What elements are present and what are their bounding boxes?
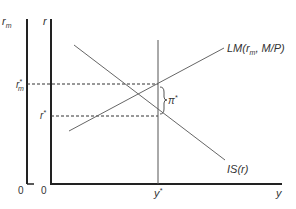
rm-origin-label: 0 <box>18 185 24 196</box>
is-curve-label: IS(r) <box>227 163 249 175</box>
y-star-tick-label: y* <box>153 187 163 199</box>
lm-curve-label: LM(rm, M/P) <box>227 42 285 56</box>
lm-curve <box>69 48 224 131</box>
rm-star-tick-label: r*m <box>16 78 24 92</box>
rm-axis-label: rm <box>2 15 12 29</box>
y-axis-label: y <box>275 187 283 199</box>
r-star-tick-label: r* <box>40 109 46 121</box>
r-origin-label: 0 <box>41 185 47 196</box>
islm-diagram: rm r r*m r* 0 0 y* y LM(rm, M/P) IS(r) π… <box>0 0 296 209</box>
pi-star-brace <box>160 87 167 114</box>
is-curve <box>74 45 225 160</box>
diagram-canvas: rm r r*m r* 0 0 y* y LM(rm, M/P) IS(r) π… <box>0 0 296 209</box>
r-axis-label: r <box>43 15 48 27</box>
pi-star-label: π* <box>168 94 178 106</box>
